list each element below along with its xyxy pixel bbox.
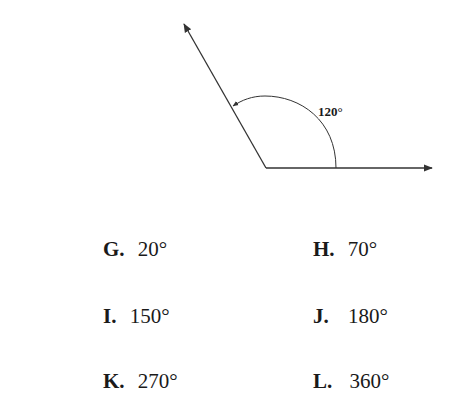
choice-letter: H. (313, 237, 335, 261)
choice-letter: I. (103, 304, 116, 328)
choice-value: 270° (138, 369, 178, 393)
choice-letter: L. (313, 369, 332, 393)
angle-label: 120° (318, 104, 343, 119)
choice-value: 70° (348, 237, 377, 261)
choice-value: 20° (138, 237, 167, 261)
choice-k[interactable]: K. 270° (103, 369, 178, 393)
choice-letter: G. (103, 237, 125, 261)
choice-letter: J. (313, 304, 329, 328)
choice-h[interactable]: H. 70° (313, 237, 377, 261)
choice-g[interactable]: G. 20° (103, 237, 167, 261)
choice-value: 360° (350, 369, 390, 393)
slanted-ray (184, 24, 266, 168)
choice-value: 180° (348, 304, 388, 328)
choice-i[interactable]: I. 150° (103, 304, 170, 328)
choice-letter: K. (103, 369, 125, 393)
choice-j[interactable]: J. 180° (313, 304, 388, 328)
angle-diagram: 120° (0, 0, 473, 200)
choice-l[interactable]: L. 360° (313, 369, 389, 393)
choice-value: 150° (130, 304, 170, 328)
